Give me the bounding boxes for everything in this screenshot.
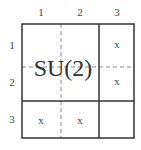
cell-mark-r1-c3: x (114, 38, 120, 50)
su2-block-label: SU(2) (34, 55, 93, 81)
su2-matrix-diagram: 1 2 3 1 2 3 SU(2) x x x x (0, 0, 141, 150)
row-label-2: 2 (9, 76, 15, 88)
cell-mark-r2-c3: x (114, 75, 120, 87)
column-label-2: 2 (77, 6, 83, 18)
cell-mark-r3-c2: x (77, 114, 83, 126)
column-label-3: 3 (114, 6, 120, 18)
column-label-1: 1 (38, 6, 44, 18)
row-label-1: 1 (9, 39, 15, 51)
cell-mark-r3-c1: x (38, 114, 44, 126)
row-label-3: 3 (9, 113, 15, 125)
